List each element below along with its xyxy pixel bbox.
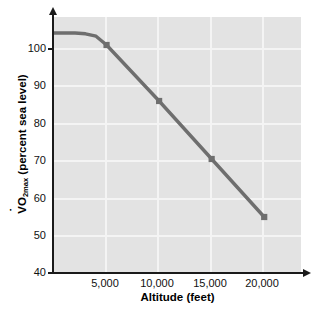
y-axis-line — [52, 14, 54, 273]
y-tick-label-40: 40 — [20, 267, 46, 278]
x-axis-title: Altitude (feet) — [54, 291, 301, 303]
y-tick-mark-40 — [48, 272, 53, 274]
y-axis-title: VO2max (percent sea level) — [16, 37, 28, 252]
x-tick-label-5000: 5,000 — [78, 277, 132, 289]
x-tick-label-20000: 20,000 — [235, 277, 289, 289]
data-series-vo2max — [54, 17, 301, 273]
data-point-20000 — [261, 214, 267, 220]
series-line — [54, 33, 264, 217]
x-axis-line — [52, 272, 305, 274]
x-axis-arrow-icon — [303, 269, 311, 277]
data-point-5000 — [103, 42, 109, 48]
y-tick-40: 40 — [0, 267, 46, 278]
y-axis-title-v: V — [16, 206, 28, 214]
y-axis-title-units: (percent sea level) — [16, 74, 28, 178]
y-axis-title-o: O — [16, 197, 28, 206]
y-axis-arrow-icon — [49, 7, 57, 15]
chart-figure: 100 90 80 70 60 50 40 5,000 10,000 15,00… — [0, 0, 327, 311]
y-tick-mark-100 — [48, 48, 53, 50]
plot-area — [54, 17, 301, 273]
x-tick-label-10000: 10,000 — [130, 277, 184, 289]
data-point-15000 — [209, 156, 215, 162]
y-axis-title-subscript: 2max — [21, 178, 30, 197]
x-tick-label-15000: 15,000 — [183, 277, 237, 289]
data-point-10000 — [156, 98, 162, 104]
